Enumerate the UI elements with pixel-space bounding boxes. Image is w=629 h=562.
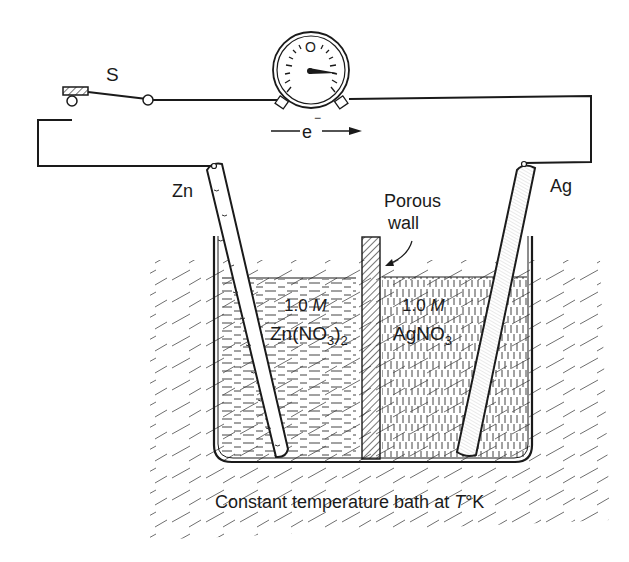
porous-wall-label-line2: wall <box>387 213 419 233</box>
electron-charge: − <box>314 111 321 125</box>
switch <box>63 87 153 106</box>
electron-label: e <box>302 122 312 142</box>
electron-flow-arrow <box>271 127 362 135</box>
switch-handle <box>63 87 88 95</box>
switch-lever <box>88 92 147 99</box>
left-concentration: 1.0 M <box>284 296 327 315</box>
switch-pivot <box>67 96 77 106</box>
zn-electrode-label: Zn <box>172 181 193 201</box>
ag-electrode-label: Ag <box>550 176 572 196</box>
switch-label: S <box>106 64 119 85</box>
porous-wall-label-line1: Porous <box>384 191 441 211</box>
porous-wall <box>362 237 380 459</box>
bath-caption: Constant temperature bath at T°K <box>215 492 484 512</box>
galvanometer: O <box>273 32 349 109</box>
meter-zero-label: O <box>305 39 316 55</box>
galvanic-cell-diagram: S O e − <box>0 0 629 562</box>
right-concentration: 1.0 M <box>402 296 445 315</box>
switch-contact <box>143 95 153 105</box>
